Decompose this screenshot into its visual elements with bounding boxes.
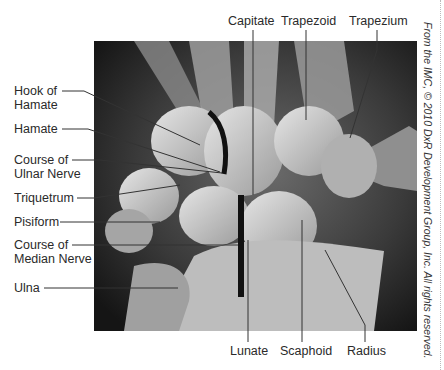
label-course-of-ulnar-nerve: Course of Ulnar Nerve xyxy=(14,153,81,181)
label-hamate: Hamate xyxy=(14,122,58,136)
leader-lines xyxy=(0,0,444,370)
label-hook-of-hamate: Hook of Hamate xyxy=(14,84,58,112)
label-line: Course of xyxy=(14,238,92,252)
leader-line-ulnar-nerve xyxy=(72,160,222,173)
label-lunate: Lunate xyxy=(230,344,268,358)
label-triquetrum: Triquetrum xyxy=(14,191,74,205)
leader-line-hamate xyxy=(62,129,220,172)
label-trapezoid: Trapezoid xyxy=(281,14,336,28)
label-line: Hamate xyxy=(14,98,58,112)
leader-line-triquetrum xyxy=(77,185,180,198)
label-line: Median Nerve xyxy=(14,252,92,266)
label-pisiform: Pisiform xyxy=(14,215,59,229)
label-line: Hook of xyxy=(14,84,58,98)
leader-line-radius xyxy=(325,250,365,342)
median-nerve-course-marker xyxy=(238,195,244,297)
label-trapezium: Trapezium xyxy=(349,14,408,28)
label-line: Course of xyxy=(14,153,81,167)
label-course-of-median-nerve: Course of Median Nerve xyxy=(14,238,92,266)
label-scaphoid: Scaphoid xyxy=(280,344,332,358)
label-ulna: Ulna xyxy=(14,281,40,295)
label-line: Ulnar Nerve xyxy=(14,167,81,181)
copyright-notice: From the IMC, © 2010 DxR Development Gro… xyxy=(421,22,435,322)
label-capitate: Capitate xyxy=(228,14,275,28)
ulnar-nerve-course-marker xyxy=(209,112,226,174)
label-radius: Radius xyxy=(347,344,386,358)
leader-line-trapezium xyxy=(350,30,377,138)
leader-line-hook-of-hamate xyxy=(62,91,200,145)
